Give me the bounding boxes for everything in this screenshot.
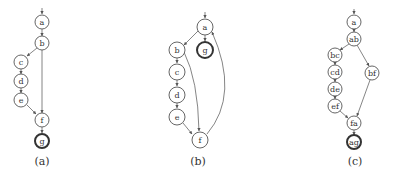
edge-b-c (27, 48, 37, 56)
svg-text:d: d (18, 77, 23, 86)
node-bc: bc (328, 48, 342, 62)
svg-text:ab: ab (349, 35, 359, 44)
node-ef: ef (328, 99, 342, 113)
node-c: c (14, 55, 28, 69)
svg-text:g: g (202, 46, 207, 55)
node-b: b (35, 36, 49, 50)
node-a: a (197, 19, 213, 35)
svg-text:ag: ag (349, 138, 359, 147)
edge-e-f (183, 123, 192, 134)
edge-b-f (184, 52, 199, 131)
node-c: c (169, 64, 185, 80)
caption-a: (a) (34, 155, 49, 168)
node-a: a (35, 15, 49, 29)
svg-text:b: b (174, 46, 179, 55)
svg-text:a: a (40, 18, 45, 27)
svg-text:b: b (39, 39, 44, 48)
node-f: f (35, 113, 49, 127)
edge-a-b (184, 31, 198, 45)
panel-b: a g b c d e f (b) (169, 12, 225, 168)
node-fa: fa (347, 116, 361, 130)
node-e: e (14, 93, 28, 107)
edge-ab-bf (357, 45, 369, 66)
svg-text:e: e (175, 113, 180, 122)
svg-text:a: a (352, 18, 357, 27)
svg-text:bc: bc (330, 51, 340, 60)
node-ab: ab (347, 32, 361, 46)
svg-text:fa: fa (350, 119, 358, 128)
node-d: d (14, 74, 28, 88)
node-e: e (169, 109, 185, 125)
svg-text:g: g (39, 137, 44, 146)
node-b: b (169, 42, 185, 58)
edge-ef-fa (340, 111, 348, 118)
node-g-final: g (35, 134, 49, 148)
node-f: f (192, 132, 208, 148)
node-ag-final: ag (347, 135, 361, 149)
caption-b: (b) (190, 155, 206, 168)
node-cd: cd (328, 65, 342, 79)
svg-text:ef: ef (331, 102, 340, 111)
node-bf: bf (365, 66, 379, 80)
svg-text:d: d (174, 91, 179, 100)
panel-a: a b c d e f g (a) (14, 8, 50, 168)
svg-text:cd: cd (330, 68, 340, 77)
edge-ab-bc (340, 44, 349, 50)
svg-text:de: de (330, 85, 340, 94)
caption-c: (c) (348, 155, 363, 168)
figure-canvas: a b c d e f g (a) a g b c d e f (b) (0, 0, 393, 177)
edge-e-f (27, 105, 36, 114)
edge-bf-fa (357, 80, 370, 116)
svg-text:e: e (19, 96, 24, 105)
node-d: d (169, 87, 185, 103)
svg-text:c: c (175, 68, 180, 77)
node-a: a (347, 15, 361, 29)
node-de: de (328, 82, 342, 96)
svg-text:bf: bf (368, 69, 377, 78)
node-g-final: g (197, 42, 213, 58)
svg-text:a: a (203, 23, 208, 32)
panel-c: a ab bc cd de ef bf fa ag (c) (328, 9, 379, 168)
svg-text:c: c (19, 58, 24, 67)
